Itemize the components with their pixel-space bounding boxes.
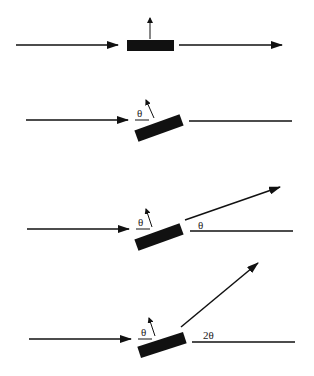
reflected-beam	[185, 187, 280, 220]
theta-label: θ	[138, 216, 143, 228]
reflection-diagram: θ θ θ θ 2θ	[0, 0, 314, 376]
reflected-angle-label: 2θ	[203, 329, 214, 341]
reflected-beam	[181, 263, 258, 327]
panel-1	[16, 18, 282, 51]
normal-arrow	[149, 318, 155, 336]
normal-arrow	[146, 209, 152, 227]
panel-2: θ	[26, 100, 292, 142]
theta-label: θ	[137, 107, 142, 119]
normal-arrow	[146, 100, 154, 118]
mirror	[127, 40, 174, 51]
theta-label: θ	[141, 326, 146, 338]
panel-4: θ 2θ	[29, 263, 295, 358]
reflected-angle-label: θ	[198, 219, 203, 231]
panel-3: θ θ	[27, 187, 293, 251]
